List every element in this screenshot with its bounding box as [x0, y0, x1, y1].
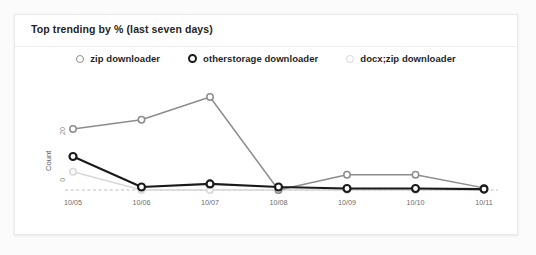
- screenshot-root: Top trending by % (last seven days) zip …: [0, 0, 536, 255]
- data-point-marker[interactable]: [275, 184, 282, 191]
- chart-timezone-caption: Chart time zone: (UTC): [238, 219, 317, 221]
- data-point-marker[interactable]: [412, 172, 418, 178]
- data-point-marker[interactable]: [138, 117, 144, 123]
- data-point-marker[interactable]: [207, 180, 214, 187]
- data-point-marker[interactable]: [344, 172, 350, 178]
- data-point-marker[interactable]: [70, 169, 76, 175]
- chart-plot-area: Count20010/0510/0610/0710/0810/0910/1010…: [15, 61, 517, 221]
- chart-series: [70, 153, 488, 193]
- line-chart-svg: Count20010/0510/0610/0710/0810/0910/1010…: [15, 61, 518, 221]
- y-axis-title: Count: [44, 150, 53, 171]
- data-point-marker[interactable]: [70, 153, 77, 160]
- data-point-marker[interactable]: [207, 94, 213, 100]
- x-axis-tick-label: 10/05: [64, 198, 82, 207]
- page-title: Top trending by % (last seven days): [31, 23, 213, 35]
- data-point-marker[interactable]: [138, 184, 145, 191]
- data-point-marker[interactable]: [412, 185, 419, 192]
- x-axis-tick-label: 10/06: [133, 198, 151, 207]
- data-point-marker[interactable]: [344, 185, 351, 192]
- x-axis-tick-label: 10/11: [475, 198, 492, 207]
- x-axis-tick-label: 10/07: [201, 198, 219, 207]
- data-point-marker[interactable]: [70, 126, 76, 132]
- trending-chart-card: Top trending by % (last seven days) zip …: [14, 14, 518, 235]
- x-axis-tick-label: 10/09: [338, 198, 356, 207]
- card-header: Top trending by % (last seven days): [15, 15, 517, 47]
- chart-series: [70, 94, 487, 193]
- y-axis-tick-label: 0: [58, 178, 67, 182]
- data-point-marker[interactable]: [481, 186, 488, 193]
- x-axis-tick-label: 10/10: [407, 198, 425, 207]
- x-axis-tick-label: 10/08: [270, 198, 288, 207]
- y-axis-tick-label: 20: [58, 127, 67, 135]
